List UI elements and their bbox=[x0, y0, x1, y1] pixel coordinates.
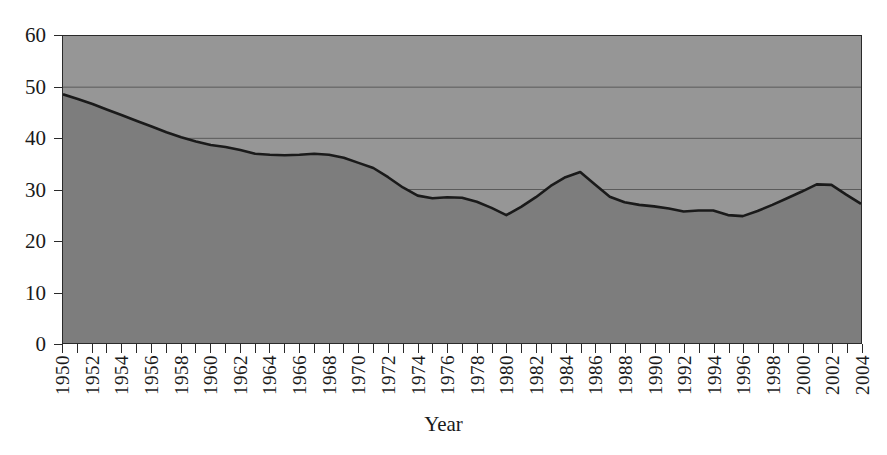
x-tick-mark-1973 bbox=[403, 344, 404, 353]
plot-area bbox=[62, 35, 862, 344]
x-tick-label-1958: 1958 bbox=[172, 355, 191, 395]
x-tick-label-1954: 1954 bbox=[112, 355, 131, 395]
x-tick-mark-1976 bbox=[447, 344, 448, 353]
x-tick-mark-1991 bbox=[669, 344, 670, 353]
x-tick-mark-1964 bbox=[269, 344, 270, 353]
x-tick-mark-1999 bbox=[788, 344, 789, 353]
y-tick-label-30: 30 bbox=[25, 179, 46, 200]
x-tick-mark-1978 bbox=[477, 344, 478, 353]
x-tick-label-1984: 1984 bbox=[557, 355, 576, 395]
x-tick-mark-1951 bbox=[77, 344, 78, 353]
x-tick-mark-1959 bbox=[195, 344, 196, 353]
x-tick-mark-1995 bbox=[729, 344, 730, 353]
x-tick-mark-1989 bbox=[640, 344, 641, 353]
x-tick-label-1968: 1968 bbox=[320, 355, 339, 395]
y-tick-mark-60 bbox=[54, 35, 62, 36]
x-tick-mark-1955 bbox=[136, 344, 137, 353]
x-tick-mark-1987 bbox=[610, 344, 611, 353]
x-tick-mark-2000 bbox=[803, 344, 804, 353]
y-tick-mark-30 bbox=[54, 190, 62, 191]
x-tick-mark-1997 bbox=[758, 344, 759, 353]
x-tick-label-1966: 1966 bbox=[290, 355, 309, 395]
x-tick-mark-1988 bbox=[625, 344, 626, 353]
x-axis-ticks bbox=[0, 344, 887, 353]
x-tick-mark-1993 bbox=[699, 344, 700, 353]
x-tick-label-2002: 2002 bbox=[823, 355, 842, 395]
x-tick-mark-1981 bbox=[521, 344, 522, 353]
y-tick-mark-10 bbox=[54, 293, 62, 294]
x-tick-label-1972: 1972 bbox=[379, 355, 398, 395]
x-tick-label-1976: 1976 bbox=[438, 355, 457, 395]
x-tick-label-1974: 1974 bbox=[409, 355, 428, 395]
x-tick-mark-1957 bbox=[166, 344, 167, 353]
x-tick-mark-1998 bbox=[773, 344, 774, 353]
x-tick-mark-1985 bbox=[581, 344, 582, 353]
x-tick-label-1998: 1998 bbox=[764, 355, 783, 395]
x-tick-label-1986: 1986 bbox=[586, 355, 605, 395]
y-tick-mark-40 bbox=[54, 138, 62, 139]
x-tick-mark-1972 bbox=[388, 344, 389, 353]
x-tick-label-1980: 1980 bbox=[497, 355, 516, 395]
x-tick-mark-1986 bbox=[595, 344, 596, 353]
x-tick-mark-1969 bbox=[343, 344, 344, 353]
x-tick-mark-1980 bbox=[506, 344, 507, 353]
plot-svg bbox=[63, 36, 861, 343]
y-tick-label-10: 10 bbox=[25, 282, 46, 303]
y-tick-label-50: 50 bbox=[25, 76, 46, 97]
area-chart: 0102030405060 19501952195419561958196019… bbox=[0, 0, 887, 455]
x-tick-label-1962: 1962 bbox=[231, 355, 250, 395]
x-tick-mark-1996 bbox=[743, 344, 744, 353]
y-tick-label-20: 20 bbox=[25, 231, 46, 252]
x-tick-label-1992: 1992 bbox=[675, 355, 694, 395]
x-tick-mark-1982 bbox=[536, 344, 537, 353]
x-tick-label-1964: 1964 bbox=[260, 355, 279, 395]
x-tick-mark-1979 bbox=[492, 344, 493, 353]
x-axis-title: Year bbox=[0, 414, 887, 435]
x-tick-label-1950: 1950 bbox=[53, 355, 72, 395]
x-tick-mark-1974 bbox=[418, 344, 419, 353]
x-tick-mark-1992 bbox=[684, 344, 685, 353]
x-tick-mark-1975 bbox=[432, 344, 433, 353]
area-fill bbox=[63, 94, 861, 343]
x-tick-mark-1965 bbox=[284, 344, 285, 353]
x-tick-mark-1994 bbox=[714, 344, 715, 353]
x-tick-mark-1971 bbox=[373, 344, 374, 353]
x-tick-mark-1983 bbox=[551, 344, 552, 353]
x-tick-label-1990: 1990 bbox=[646, 355, 665, 395]
x-tick-mark-2003 bbox=[847, 344, 848, 353]
x-tick-mark-1967 bbox=[314, 344, 315, 353]
x-tick-mark-1963 bbox=[255, 344, 256, 353]
y-tick-label-40: 40 bbox=[25, 128, 46, 149]
x-tick-label-1978: 1978 bbox=[468, 355, 487, 395]
x-tick-mark-1968 bbox=[329, 344, 330, 353]
x-tick-mark-1950 bbox=[62, 344, 63, 353]
x-tick-label-1996: 1996 bbox=[734, 355, 753, 395]
x-tick-mark-1956 bbox=[151, 344, 152, 353]
x-tick-label-2000: 2000 bbox=[794, 355, 813, 395]
x-tick-mark-1970 bbox=[358, 344, 359, 353]
x-tick-label-1952: 1952 bbox=[83, 355, 102, 395]
x-tick-mark-1962 bbox=[240, 344, 241, 353]
x-tick-mark-1954 bbox=[121, 344, 122, 353]
x-axis-labels: 1950195219541956195819601962196419661968… bbox=[0, 355, 887, 413]
x-tick-label-1956: 1956 bbox=[142, 355, 161, 395]
x-tick-mark-1977 bbox=[462, 344, 463, 353]
x-tick-mark-2002 bbox=[832, 344, 833, 353]
x-tick-label-1994: 1994 bbox=[705, 355, 724, 395]
x-tick-mark-1961 bbox=[225, 344, 226, 353]
x-tick-label-1988: 1988 bbox=[616, 355, 635, 395]
y-tick-label-60: 60 bbox=[25, 25, 46, 46]
x-tick-mark-2001 bbox=[818, 344, 819, 353]
x-tick-mark-1953 bbox=[106, 344, 107, 353]
y-tick-mark-20 bbox=[54, 241, 62, 242]
x-tick-label-1960: 1960 bbox=[201, 355, 220, 395]
x-tick-label-1982: 1982 bbox=[527, 355, 546, 395]
x-tick-label-2004: 2004 bbox=[853, 355, 872, 395]
y-tick-mark-50 bbox=[54, 87, 62, 88]
x-tick-mark-1960 bbox=[210, 344, 211, 353]
x-tick-mark-1984 bbox=[566, 344, 567, 353]
x-tick-mark-1958 bbox=[181, 344, 182, 353]
x-tick-mark-1966 bbox=[299, 344, 300, 353]
x-tick-label-1970: 1970 bbox=[349, 355, 368, 395]
x-tick-mark-1952 bbox=[92, 344, 93, 353]
